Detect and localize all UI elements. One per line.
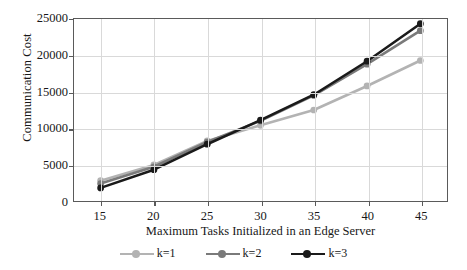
x-tick-mark	[208, 201, 209, 206]
x-tick-label: 40	[348, 209, 388, 224]
chart-figure: Communication Cost 050001000015000200002…	[0, 0, 467, 270]
series-line	[101, 24, 421, 188]
y-tick-mark	[69, 19, 74, 20]
data-point	[257, 117, 264, 124]
gridline-vertical	[262, 19, 263, 201]
y-tick-label: 5000	[22, 159, 68, 172]
legend-label: k=2	[243, 246, 262, 261]
x-tick-label: 25	[187, 209, 227, 224]
y-tick-mark	[69, 129, 74, 130]
legend-marker-icon	[206, 248, 240, 260]
chart-lines	[74, 19, 447, 201]
gridline-vertical	[208, 19, 209, 201]
series-line	[101, 31, 421, 184]
y-tick-mark	[69, 166, 74, 167]
legend-label: k=1	[157, 246, 176, 261]
y-tick-mark	[69, 93, 74, 94]
x-tick-mark	[369, 201, 370, 206]
x-tick-mark	[315, 201, 316, 206]
legend-label: k=3	[328, 246, 347, 261]
x-tick-label: 20	[133, 209, 173, 224]
gridline-horizontal	[74, 166, 447, 167]
chart-legend: k=1k=2k=3	[0, 246, 467, 261]
legend-item-k3[interactable]: k=3	[291, 246, 347, 261]
y-tick-label: 25000	[22, 12, 68, 25]
y-tick-label: 20000	[22, 49, 68, 62]
x-axis-title: Maximum Tasks Initialized in an Edge Ser…	[73, 224, 448, 239]
legend-marker-icon	[120, 248, 154, 260]
gridline-vertical	[315, 19, 316, 201]
y-tick-mark	[69, 56, 74, 57]
gridline-vertical	[422, 19, 423, 201]
x-tick-label: 35	[294, 209, 334, 224]
y-tick-label: 15000	[22, 86, 68, 99]
y-tick-label: 0	[22, 196, 68, 209]
legend-dot	[218, 250, 226, 258]
gridline-horizontal	[74, 129, 447, 130]
legend-item-k2[interactable]: k=2	[206, 246, 262, 261]
gridline-vertical	[154, 19, 155, 201]
series-k2	[97, 27, 423, 187]
legend-dot	[303, 250, 311, 258]
y-axis-tick-labels: 0500010000150002000025000	[18, 0, 68, 270]
gridline-horizontal	[74, 93, 447, 94]
legend-dot	[132, 250, 140, 258]
legend-item-k1[interactable]: k=1	[120, 246, 176, 261]
x-tick-mark	[422, 201, 423, 206]
x-tick-mark	[154, 201, 155, 206]
plot-area	[73, 18, 448, 202]
x-tick-label: 30	[241, 209, 281, 224]
y-tick-label: 10000	[22, 122, 68, 135]
x-tick-label: 45	[401, 209, 441, 224]
gridline-horizontal	[74, 56, 447, 57]
gridline-vertical	[369, 19, 370, 201]
x-tick-mark	[101, 201, 102, 206]
x-tick-label: 15	[80, 209, 120, 224]
legend-marker-icon	[291, 248, 325, 260]
gridline-vertical	[101, 19, 102, 201]
x-tick-mark	[262, 201, 263, 206]
data-point	[310, 107, 317, 114]
